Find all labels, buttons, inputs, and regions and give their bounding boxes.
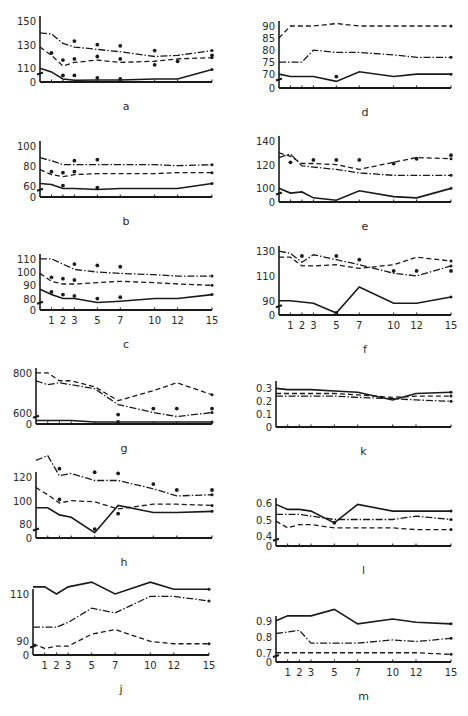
data-point (58, 498, 62, 502)
y-tick-label: 0 (269, 83, 275, 94)
data-point (118, 44, 122, 48)
x-tick-label: 1 (42, 660, 48, 671)
data-point (61, 277, 65, 281)
y-tick-label: 0 (30, 305, 36, 316)
x-tick-label: 2 (296, 667, 302, 678)
x-tick-label: 12 (410, 320, 423, 331)
y-tick-label: 0 (30, 192, 36, 203)
y-tick-label: 100 (17, 267, 36, 278)
x-tick-label: 2 (53, 660, 59, 671)
data-point (334, 158, 338, 162)
axis-break-icon (37, 73, 43, 75)
data-point (58, 467, 62, 471)
panel-label: l (362, 564, 365, 577)
y-tick-label: 110 (17, 63, 36, 74)
series-dash-dot (33, 596, 209, 627)
y-tick-label: 0 (269, 310, 275, 321)
x-tick-label: 10 (144, 660, 157, 671)
y-tick-label: 0.9 (256, 616, 272, 627)
x-tick-label: 10 (386, 667, 399, 678)
y-tick-label: 110 (256, 271, 275, 282)
data-point (95, 264, 99, 268)
data-point (50, 275, 54, 279)
data-point (210, 488, 214, 492)
series-dash-dot (279, 50, 451, 62)
y-tick-label: 0 (269, 197, 275, 208)
y-tick-label: 130 (17, 40, 36, 51)
x-tick-label: 7 (356, 320, 362, 331)
y-tick-label: 110 (10, 589, 29, 600)
data-point (153, 49, 157, 53)
data-point (210, 407, 214, 411)
data-point (95, 158, 99, 162)
data-point (392, 162, 396, 166)
axis-break-icon (33, 416, 39, 418)
axis-break-icon (276, 193, 282, 195)
y-tick-label: 0 (266, 541, 272, 552)
data-point (449, 153, 453, 157)
panel-j: 09011012357101215j (10, 582, 215, 696)
series-dashed (279, 153, 451, 170)
panel-label: a (123, 100, 130, 113)
data-point (61, 184, 65, 188)
y-tick-label: 90 (23, 280, 36, 291)
data-point (73, 39, 77, 43)
y-tick-label: 90 (262, 296, 275, 307)
y-tick-label: 80 (19, 519, 32, 530)
axis-break-icon (30, 646, 36, 648)
y-tick-label: 0 (30, 77, 36, 88)
x-tick-label: 7 (117, 315, 123, 326)
y-tick-label: 80 (262, 45, 275, 56)
data-point (95, 43, 99, 47)
series-dash-dot (279, 251, 451, 276)
series-solid (276, 609, 451, 623)
series-solid (40, 184, 212, 190)
series-solid (279, 188, 451, 200)
data-point (93, 527, 97, 531)
series-solid (40, 68, 212, 80)
y-tick-label: 130 (256, 246, 275, 257)
series-dash-dot (40, 259, 212, 276)
x-tick-label: 2 (60, 315, 66, 326)
panel-a: 0110130150a (17, 16, 214, 113)
y-tick-label: 120 (256, 160, 275, 171)
x-tick-label: 5 (88, 660, 94, 671)
axis-break-icon (276, 78, 282, 80)
data-point (73, 294, 77, 298)
data-point (95, 186, 99, 190)
panel-l: 00.40.50.6l (256, 498, 452, 577)
series-dash-dot (276, 514, 451, 519)
data-point (300, 254, 304, 258)
panel-label: g (121, 442, 128, 455)
panel-e: 0100120140e (256, 136, 453, 233)
series-dashed (276, 653, 451, 655)
x-tick-label: 15 (445, 667, 458, 678)
axis-break-icon (273, 655, 279, 657)
x-tick-label: 15 (445, 320, 458, 331)
panel-label: c (123, 338, 129, 351)
y-tick-label: 0 (26, 533, 32, 544)
y-tick-label: 0.3 (256, 383, 272, 394)
data-point (118, 77, 122, 81)
panel-k: 00.10.20.3k (256, 381, 452, 458)
panel-f: 09011013012357101215f (256, 246, 457, 356)
data-point (415, 157, 419, 161)
data-point (332, 521, 336, 525)
x-tick-label: 12 (171, 315, 184, 326)
panel-label: k (360, 445, 367, 458)
panel-label: h (121, 556, 128, 569)
data-point (73, 57, 77, 61)
data-point (449, 269, 453, 273)
series-solid (279, 72, 451, 82)
panel-label: e (362, 220, 369, 233)
axis-break-icon (276, 305, 282, 307)
series-solid (33, 582, 209, 594)
data-point (118, 295, 122, 299)
y-tick-label: 0.8 (256, 632, 272, 643)
data-point (176, 59, 180, 63)
series-solid (279, 287, 451, 313)
y-tick-label: 110 (17, 254, 36, 265)
series-dashed (40, 170, 212, 177)
data-point (93, 470, 97, 474)
data-point (151, 407, 155, 411)
